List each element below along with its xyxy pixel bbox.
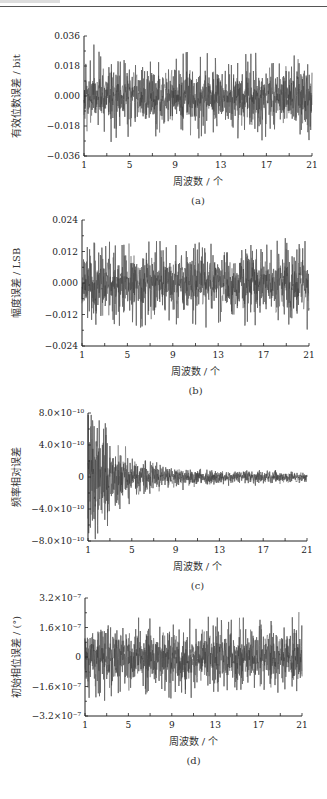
y-tick-label: −4.0×10⁻¹⁰ bbox=[31, 504, 84, 514]
y-tick-label: 0.000 bbox=[54, 91, 80, 101]
chart-a: 0.0360.0180.000−0.018−0.036159131721周波数 … bbox=[10, 31, 318, 206]
x-tick-label: 5 bbox=[125, 350, 131, 360]
panel-caption: (d) bbox=[186, 755, 200, 766]
y-tick-label: −0.012 bbox=[45, 310, 78, 320]
x-tick-label: 1 bbox=[85, 545, 91, 555]
x-tick-label: 9 bbox=[172, 160, 178, 170]
x-tick-label: 1 bbox=[79, 350, 85, 360]
figure-panels: 0.0360.0180.000−0.018−0.036159131721周波数 … bbox=[0, 0, 327, 799]
x-axis-title: 周波数 / 个 bbox=[173, 175, 223, 187]
x-axis-title: 周波数 / 个 bbox=[169, 735, 219, 747]
signal-trace bbox=[88, 415, 307, 539]
signal-trace bbox=[85, 612, 302, 701]
x-tick-label: 9 bbox=[173, 545, 179, 555]
y-tick-label: 0.000 bbox=[52, 278, 78, 288]
x-tick-label: 1 bbox=[82, 720, 88, 730]
chart-b: 0.0240.0120.000−0.012−0.024159131721周波数 … bbox=[10, 215, 315, 396]
y-tick-label: 3.2×10⁻⁷ bbox=[39, 593, 81, 603]
y-tick-label: 8.0×10⁻¹⁰ bbox=[39, 408, 85, 418]
x-tick-label: 13 bbox=[209, 720, 221, 730]
y-tick-label: 0 bbox=[78, 472, 84, 482]
y-tick-label: 0.036 bbox=[54, 31, 80, 41]
y-tick-label: 0.012 bbox=[52, 247, 78, 257]
signal-trace bbox=[82, 238, 309, 329]
x-tick-label: 17 bbox=[261, 160, 273, 170]
x-tick-label: 5 bbox=[129, 545, 135, 555]
y-axis-title: 频率相对误差 bbox=[10, 447, 22, 507]
y-tick-label: 0 bbox=[75, 652, 81, 662]
x-tick-label: 13 bbox=[212, 350, 224, 360]
x-tick-label: 5 bbox=[126, 720, 132, 730]
x-tick-label: 9 bbox=[169, 720, 175, 730]
x-tick-label: 1 bbox=[81, 160, 87, 170]
panel-caption: (b) bbox=[188, 385, 202, 396]
y-tick-label: −1.6×10⁻⁷ bbox=[32, 682, 82, 692]
chart-c: 8.0×10⁻¹⁰4.0×10⁻¹⁰0−4.0×10⁻¹⁰−8.0×10⁻¹⁰1… bbox=[10, 408, 313, 591]
y-tick-label: −0.018 bbox=[47, 121, 81, 131]
x-tick-label: 13 bbox=[215, 160, 227, 170]
signal-trace bbox=[84, 45, 312, 142]
x-tick-label: 13 bbox=[214, 545, 226, 555]
y-tick-label: −8.0×10⁻¹⁰ bbox=[31, 536, 84, 546]
x-tick-label: 9 bbox=[170, 350, 176, 360]
y-tick-label: −0.036 bbox=[47, 151, 81, 161]
x-tick-label: 21 bbox=[301, 545, 312, 555]
y-axis-title: 初始相位误差 / (°) bbox=[10, 616, 22, 699]
y-tick-label: 0.018 bbox=[54, 61, 80, 71]
chart-d: 3.2×10⁻⁷1.6×10⁻⁷0−1.6×10⁻⁷−3.2×10⁻⁷15913… bbox=[10, 593, 308, 766]
x-tick-label: 17 bbox=[258, 350, 270, 360]
y-tick-label: −3.2×10⁻⁷ bbox=[32, 711, 82, 721]
x-tick-label: 17 bbox=[253, 720, 265, 730]
panel-caption: (a) bbox=[191, 195, 205, 206]
x-tick-label: 5 bbox=[127, 160, 133, 170]
x-tick-label: 17 bbox=[257, 545, 269, 555]
x-tick-label: 21 bbox=[296, 720, 307, 730]
y-tick-label: −0.024 bbox=[45, 341, 79, 351]
x-tick-label: 21 bbox=[303, 350, 314, 360]
y-tick-label: 1.6×10⁻⁷ bbox=[39, 623, 81, 633]
x-axis-title: 周波数 / 个 bbox=[173, 560, 223, 572]
y-axis-title: 幅度误差 / LSB bbox=[10, 248, 22, 319]
y-tick-label: 0.024 bbox=[52, 215, 78, 225]
panel-caption: (c) bbox=[191, 580, 205, 591]
y-axis-title: 有效位数误差 / bit bbox=[10, 54, 22, 137]
x-axis-title: 周波数 / 个 bbox=[171, 365, 221, 377]
y-tick-label: 4.0×10⁻¹⁰ bbox=[39, 440, 85, 450]
x-tick-label: 21 bbox=[306, 160, 317, 170]
